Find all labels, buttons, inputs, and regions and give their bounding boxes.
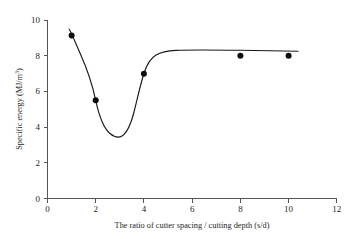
y-axis-title-group: Specific energy (MJ/m3): [14, 68, 24, 150]
data-point-1: [69, 33, 75, 39]
y-tick-label-2: 2: [36, 158, 41, 168]
y-tick-label-6: 6: [36, 86, 41, 96]
y-axis-title-main: Specific energy (MJ/m: [15, 73, 24, 149]
y-axis-title-end: ): [15, 68, 24, 71]
y-tick-label-8: 8: [36, 51, 41, 61]
x-tick-label-2: 2: [93, 204, 98, 214]
chart-container: 0 2 4 6 8 10 Specific energy (MJ/m3): [0, 0, 347, 239]
x-axis-title: The ratio of cutter spacing / cutting de…: [115, 221, 270, 230]
chart-background: [0, 0, 347, 239]
data-point-4: [237, 53, 243, 59]
data-point-2: [93, 97, 99, 103]
y-tick-label-0: 0: [36, 194, 41, 204]
data-point-3: [141, 71, 147, 77]
x-tick-label-0: 0: [45, 204, 50, 214]
x-tick-label-10: 10: [284, 204, 294, 214]
data-point-5: [286, 53, 292, 59]
x-tick-label-6: 6: [190, 204, 195, 214]
y-tick-label-10: 10: [31, 15, 41, 25]
y-axis-title: Specific energy (MJ/m3): [14, 68, 24, 150]
x-tick-label-8: 8: [238, 204, 243, 214]
x-tick-label-4: 4: [142, 204, 147, 214]
specific-energy-line-chart: 0 2 4 6 8 10 Specific energy (MJ/m3): [0, 0, 347, 239]
y-tick-label-4: 4: [36, 122, 41, 132]
x-tick-label-12: 12: [332, 204, 341, 214]
